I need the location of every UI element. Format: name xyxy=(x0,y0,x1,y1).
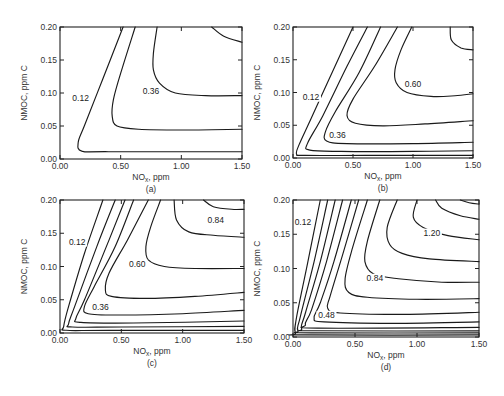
contour-label: 0.12 xyxy=(295,217,312,227)
contour-line-0.48 xyxy=(347,27,473,126)
contour-line-0.48 xyxy=(212,27,242,42)
contour-label: 1.20 xyxy=(424,228,441,238)
y-tick-label: 0.10 xyxy=(40,262,57,272)
y-tick-label: 0.20 xyxy=(273,195,290,205)
x-tick-label: 1.50 xyxy=(465,160,482,170)
x-tick-label: 0.50 xyxy=(113,335,130,345)
y-tick-label: 0.10 xyxy=(40,88,57,98)
contour-line-0.72 xyxy=(450,27,473,50)
panel-b: 0.120.360.600.000.501.001.500.000.050.10… xyxy=(252,22,482,193)
panel-caption: (a) xyxy=(146,184,157,194)
contour-label: 0.60 xyxy=(129,259,146,269)
contour-lines xyxy=(296,27,473,155)
x-tick-label: 0.50 xyxy=(347,339,364,349)
panel-caption: (c) xyxy=(147,358,157,368)
x-axis-label: NOx, ppm xyxy=(364,171,401,182)
y-tick-label: 0.05 xyxy=(40,295,57,305)
contour-label: 0.36 xyxy=(143,86,160,96)
contour-line-0.96 xyxy=(365,200,479,282)
x-tick-label: 1.00 xyxy=(409,339,426,349)
y-axis-label: NMOC, ppm C xyxy=(19,239,29,295)
y-tick-label: 0.15 xyxy=(273,55,290,65)
y-tick-label: 0.00 xyxy=(273,153,290,163)
panel-caption: (b) xyxy=(378,183,389,193)
y-tick-label: 0.10 xyxy=(273,264,290,274)
contour-label: 0.12 xyxy=(72,93,89,103)
contour-line-7 xyxy=(204,200,245,210)
contour-line-0.6 xyxy=(314,200,479,323)
contour-figure: 0.120.360.000.501.001.500.000.050.100.15… xyxy=(0,0,504,396)
panel-d: 0.120.480.841.200.000.501.001.500.000.05… xyxy=(252,195,488,372)
panel-a: 0.120.360.000.501.001.500.000.050.100.15… xyxy=(19,22,251,194)
y-tick-label: 0.00 xyxy=(40,154,57,164)
contour-label: 0.60 xyxy=(405,79,422,89)
y-tick-label: 0.20 xyxy=(40,22,57,32)
contour-label: 0.36 xyxy=(329,130,346,140)
x-axis-label: NOx, ppm xyxy=(367,350,404,361)
x-tick-label: 1.50 xyxy=(471,339,488,349)
y-tick-label: 0.00 xyxy=(40,328,57,338)
y-tick-label: 0.05 xyxy=(40,121,57,131)
x-tick-label: 1.00 xyxy=(173,161,190,171)
y-tick-label: 0.20 xyxy=(273,22,290,32)
y-tick-label: 0.15 xyxy=(40,55,57,65)
contour-line-1.44 xyxy=(460,200,479,204)
y-axis-label: NMOC, ppm C xyxy=(252,241,262,297)
y-tick-label: 0.10 xyxy=(273,88,290,98)
y-tick-label: 0.20 xyxy=(40,195,57,205)
x-tick-label: 0.50 xyxy=(345,160,362,170)
contour-label: 0.84 xyxy=(208,215,225,225)
contour-line-0.72 xyxy=(146,200,244,269)
panel-caption: (d) xyxy=(381,362,392,372)
contour-label: 0.12 xyxy=(303,92,320,102)
x-tick-label: 1.50 xyxy=(234,161,251,171)
y-tick-label: 0.05 xyxy=(273,120,290,130)
x-axis-label: NOx, ppm xyxy=(132,172,169,183)
y-tick-label: 0.15 xyxy=(273,229,290,239)
x-tick-label: 1.50 xyxy=(236,335,253,345)
x-tick-label: 1.00 xyxy=(174,335,191,345)
y-axis-label: NMOC, ppm C xyxy=(252,65,262,121)
x-tick-label: 0.50 xyxy=(112,161,129,171)
y-tick-label: 0.05 xyxy=(273,298,290,308)
contour-line-0.24 xyxy=(112,27,242,130)
y-axis-label: NMOC, ppm C xyxy=(19,65,29,121)
plot-frame xyxy=(293,27,473,158)
contour-line-0.12 xyxy=(296,27,473,155)
x-axis-label: NOx, ppm xyxy=(133,346,170,357)
contour-label: 0.36 xyxy=(92,302,109,312)
panel-c: 0.120.360.600.840.000.501.001.500.000.05… xyxy=(19,195,253,368)
contour-label: 0.48 xyxy=(318,310,335,320)
x-tick-label: 1.00 xyxy=(405,160,422,170)
y-tick-label: 0.15 xyxy=(40,228,57,238)
contour-line-0.36 xyxy=(153,27,242,96)
y-tick-label: 0.00 xyxy=(273,332,290,342)
contour-label: 0.84 xyxy=(367,273,384,283)
contour-label: 0.12 xyxy=(69,237,86,247)
